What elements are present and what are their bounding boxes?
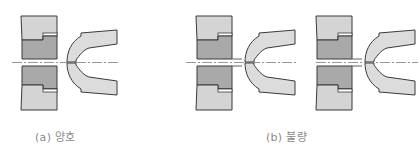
caption-a: (a) 양호	[35, 128, 76, 144]
workpiece-lower	[67, 63, 117, 95]
workpiece-upper	[365, 30, 415, 62]
workpiece-upper	[245, 30, 295, 62]
workpiece-lower	[365, 63, 415, 95]
workpiece-lower	[245, 63, 295, 95]
panel-b-left	[196, 16, 295, 110]
caption-b: (b) 불량	[266, 128, 307, 144]
panel-b-right	[316, 16, 415, 110]
workpiece-upper	[67, 30, 117, 62]
panel-a	[21, 16, 117, 110]
